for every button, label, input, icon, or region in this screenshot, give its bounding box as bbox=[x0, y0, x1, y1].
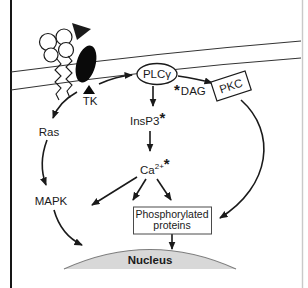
tk-label: TK bbox=[83, 95, 98, 107]
nucleus-label: Nucleus bbox=[128, 254, 173, 266]
arrow-ca-to-left-target bbox=[92, 177, 137, 205]
receptor-zigzag-chain-1 bbox=[55, 59, 61, 100]
phosphorylated-proteins-node: Phosphorylated proteins bbox=[134, 207, 212, 234]
insp3-text: InsP3 bbox=[130, 115, 159, 127]
ca-superscript: 2+ bbox=[155, 162, 164, 171]
arrow-ca-to-proteins-right bbox=[157, 179, 171, 200]
pkc-node: PKC bbox=[211, 71, 251, 101]
insp3-activation-star: * bbox=[159, 109, 165, 126]
ca-text: Ca bbox=[140, 164, 155, 176]
nucleus: Nucleus bbox=[64, 250, 236, 270]
receptor-zigzag-chain-2 bbox=[66, 56, 72, 98]
ligand-arrowhead-icon bbox=[72, 23, 91, 40]
ca-activation-star: * bbox=[164, 155, 170, 172]
dag-text: DAG bbox=[181, 85, 206, 97]
arrow-mapk-to-nucleus bbox=[54, 210, 82, 245]
tk-pointer-icon bbox=[83, 85, 95, 94]
dag-label: *DAG bbox=[174, 81, 206, 98]
dag-activation-star: * bbox=[174, 81, 180, 98]
diagram-canvas: Nucleus TK bbox=[0, 0, 308, 288]
phosphorylated-proteins-line2: proteins bbox=[153, 219, 190, 231]
insp3-label: InsP3* bbox=[130, 109, 165, 127]
pathway-figure: Nucleus TK bbox=[0, 0, 308, 288]
ras-label: Ras bbox=[39, 126, 60, 138]
plcg-node: PLCγ bbox=[137, 64, 177, 85]
plcg-label: PLCγ bbox=[143, 68, 171, 80]
arrow-ca-to-proteins-mid bbox=[133, 179, 146, 200]
arrow-plcg-to-pkc bbox=[178, 76, 212, 83]
arrow-pkc-to-proteins bbox=[220, 100, 264, 218]
arrow-ras-to-mapk bbox=[42, 140, 47, 185]
ca-label: Ca2+* bbox=[140, 155, 170, 176]
mapk-label: MAPK bbox=[35, 195, 68, 207]
